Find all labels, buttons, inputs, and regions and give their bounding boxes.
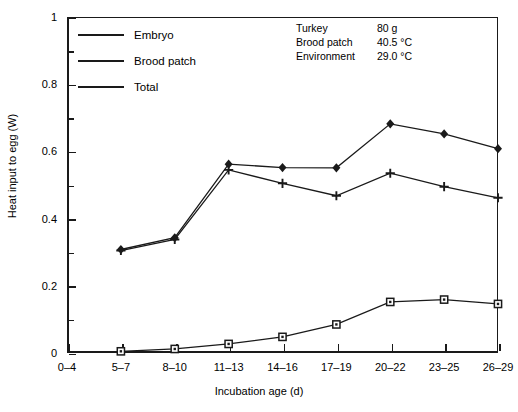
- data-point-marker: [278, 179, 287, 188]
- annotation-value-turkey: 80 g: [355, 22, 412, 36]
- annotation-row: Brood patch 40.5 °C: [296, 36, 412, 50]
- data-point-marker: [117, 348, 124, 355]
- data-point-marker: [440, 182, 449, 191]
- x-tick-label: 23–25: [429, 361, 460, 373]
- data-point-marker: [494, 300, 501, 307]
- data-point-marker: [332, 191, 341, 200]
- legend-label-brood-patch: Brood patch: [134, 55, 196, 67]
- x-tick-label: 8–10: [163, 361, 187, 373]
- y-axis-title-wrapper: Heat input to egg (W): [0, 0, 1, 1]
- data-point-marker: [279, 163, 287, 172]
- x-tick-label: 11–13: [214, 361, 244, 373]
- data-point-marker: [386, 119, 394, 128]
- series-line: [121, 300, 498, 352]
- y-tick-label: 0.2: [42, 280, 57, 291]
- legend-item-brood-patch: Brood patch: [78, 48, 238, 74]
- x-axis-title: Incubation age (d): [0, 385, 518, 397]
- annotation-label-environment: Environment: [296, 50, 355, 64]
- legend-label-embryo: Embryo: [134, 29, 174, 41]
- chart-legend: Embryo Brood patch Total: [78, 22, 238, 100]
- legend-item-embryo: Embryo: [78, 22, 238, 48]
- y-tick-label: 0.6: [42, 146, 57, 157]
- legend-marker-plus-icon: [78, 53, 124, 69]
- y-tick-label: 1: [51, 12, 57, 23]
- data-point-marker: [332, 163, 340, 172]
- y-tick-label: 0: [51, 348, 57, 359]
- y-axis-tick-labels: 00.20.40.60.81: [0, 17, 57, 353]
- data-point-marker: [387, 298, 394, 305]
- annotation-value-brood-patch: 40.5 °C: [355, 36, 412, 50]
- data-point-marker: [440, 129, 448, 138]
- legend-item-total: Total: [78, 74, 238, 100]
- x-tick-label: 26–29: [483, 361, 514, 373]
- annotation-label-brood-patch: Brood patch: [296, 36, 355, 50]
- legend-marker-open-square-icon: [78, 27, 124, 43]
- y-tick-label: 0.8: [42, 79, 57, 90]
- annotation-row: Environment 29.0 °C: [296, 50, 412, 64]
- data-point-marker: [225, 340, 232, 347]
- data-point-marker: [171, 345, 178, 352]
- x-tick-label: 17–19: [321, 361, 352, 373]
- x-tick-label: 14–16: [267, 361, 298, 373]
- legend-label-total: Total: [134, 81, 158, 93]
- chart-figure: Heat input to egg (W) 00.20.40.60.81 0–4…: [0, 0, 518, 412]
- x-tick-label: 5–7: [112, 361, 130, 373]
- annotation-table: Turkey 80 g Brood patch 40.5 °C Environm…: [296, 22, 412, 64]
- y-axis-major-tick: [69, 354, 76, 356]
- annotation-label-turkey: Turkey: [296, 22, 355, 36]
- x-tick-label: 20–22: [375, 361, 406, 373]
- series-embryo: [117, 296, 501, 355]
- data-point-marker: [494, 144, 502, 153]
- data-point-marker: [386, 169, 395, 178]
- annotation-box: Turkey 80 g Brood patch 40.5 °C Environm…: [296, 22, 412, 64]
- data-point-marker: [279, 333, 286, 340]
- x-axis-tick-labels: 0–45–78–1011–1314–1617–1920–2223–2526–29: [0, 361, 518, 377]
- data-point-marker: [333, 321, 340, 328]
- legend-marker-filled-diamond-icon: [78, 79, 124, 95]
- data-point-marker: [117, 245, 125, 254]
- annotation-value-environment: 29.0 °C: [355, 50, 412, 64]
- data-point-marker: [493, 193, 502, 202]
- annotation-row: Turkey 80 g: [296, 22, 412, 36]
- data-point-marker: [441, 296, 448, 303]
- x-tick-label: 0–4: [58, 361, 76, 373]
- x-axis-tick: [499, 344, 501, 351]
- y-tick-label: 0.4: [42, 213, 57, 224]
